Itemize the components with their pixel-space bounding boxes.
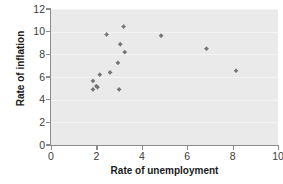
y-tick-mark: [46, 31, 51, 32]
gridline-y: [51, 9, 278, 10]
gridline-y: [51, 122, 278, 123]
y-tick-label: 6: [23, 72, 45, 83]
data-point: [204, 46, 209, 51]
y-tick-label: 12: [23, 4, 45, 15]
gridline-y: [51, 32, 278, 33]
x-axis-title: Rate of unemployment: [51, 165, 278, 176]
scatter-chart-figure: 024681012 0246810 Rate of unemployment R…: [0, 0, 283, 184]
data-point: [118, 42, 123, 47]
y-tick-mark: [46, 76, 51, 77]
x-axis-line: [50, 145, 279, 146]
x-tick-label: 0: [38, 151, 64, 162]
data-point: [117, 87, 122, 92]
x-tick-label: 10: [265, 151, 283, 162]
gridline-y: [51, 100, 278, 101]
data-point: [90, 78, 95, 83]
x-tick-label: 2: [83, 151, 109, 162]
x-tick-label: 6: [174, 151, 200, 162]
y-tick-label: 8: [23, 49, 45, 60]
x-tick-label: 4: [129, 151, 155, 162]
plot-area: [51, 9, 278, 145]
data-point: [159, 33, 164, 38]
data-point: [121, 24, 126, 29]
data-point: [90, 87, 95, 92]
data-point: [234, 68, 239, 73]
y-tick-label: 10: [23, 26, 45, 37]
gridline-y: [51, 77, 278, 78]
y-tick-label: 2: [23, 117, 45, 128]
y-tick-mark: [46, 122, 51, 123]
gridline-y: [51, 54, 278, 55]
data-point: [104, 32, 109, 37]
data-point: [108, 70, 113, 75]
y-axis-title: Rate of inflation: [15, 9, 26, 129]
data-point: [115, 60, 120, 65]
y-tick-label: 0: [23, 140, 45, 151]
y-tick-label: 4: [23, 94, 45, 105]
y-tick-mark: [46, 54, 51, 55]
y-tick-mark: [46, 99, 51, 100]
x-tick-label: 8: [220, 151, 246, 162]
y-tick-mark: [46, 8, 51, 9]
